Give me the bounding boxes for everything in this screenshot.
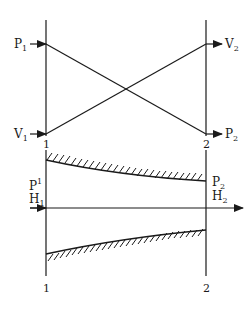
diffuser-diagram: P1 V1 V2 P2 1 2 [0, 0, 251, 313]
label-h2-outlet: H2 [212, 189, 228, 205]
station-1-label-bottom: 1 [43, 282, 50, 295]
upper-wall [46, 160, 206, 181]
station-2-label-top: 2 [203, 138, 210, 151]
upper-wall-hatch-icon [47, 153, 202, 181]
station-1-label-top: 1 [43, 138, 50, 151]
label-h1-inlet: H1 [29, 192, 45, 208]
label-p2: P2 [225, 127, 238, 143]
top-section: P1 V1 V2 P2 1 2 [13, 20, 239, 151]
bottom-section: P1 H1 P2 H2 1 2 [29, 150, 243, 295]
label-p1: P1 [14, 37, 27, 53]
label-p1-inlet: P1 [29, 177, 42, 193]
label-v1: V1 [13, 127, 28, 143]
station-2-label-bottom: 2 [203, 282, 210, 295]
lower-wall-hatch-icon [48, 229, 203, 261]
lower-wall [46, 230, 206, 254]
label-v2: V2 [224, 37, 239, 53]
